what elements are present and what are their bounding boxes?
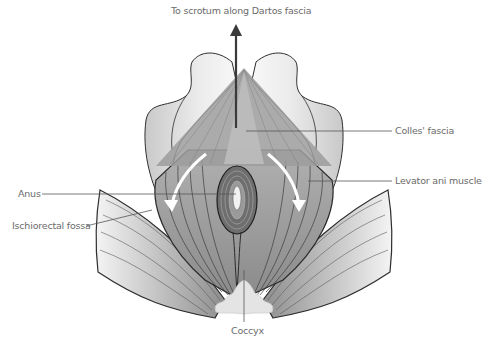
label-coccyx: Coccyx xyxy=(231,325,264,336)
label-colles-fascia: Colles' fascia xyxy=(395,125,454,136)
perineum-diagram xyxy=(0,0,488,347)
label-levator-ani: Levator ani muscle xyxy=(395,175,482,186)
label-ischiorectal-fossa: Ischiorectal fossa xyxy=(12,220,91,231)
label-top: To scrotum along Dartos fascia xyxy=(171,5,311,16)
label-anus: Anus xyxy=(18,188,41,199)
